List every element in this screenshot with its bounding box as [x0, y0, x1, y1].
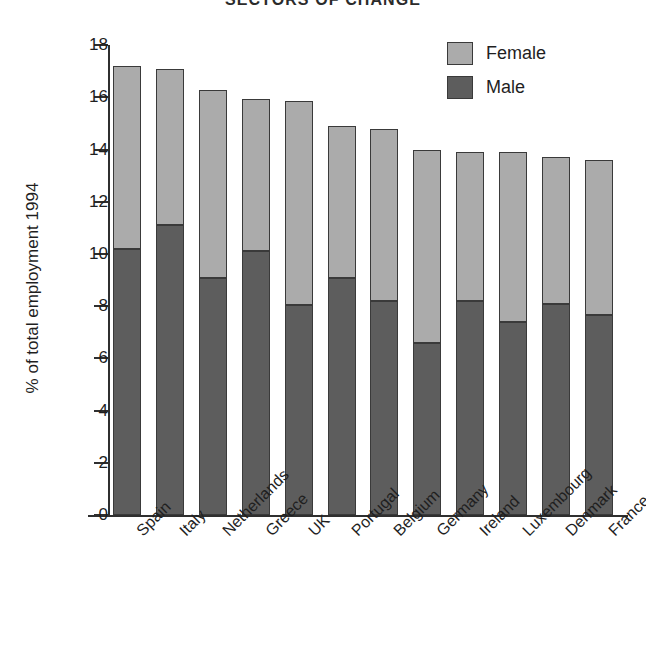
- bar-segment-female[interactable]: [242, 99, 270, 252]
- plot-area: 024681012141618 % of total employment 19…: [0, 0, 646, 646]
- bar-segment-male[interactable]: [242, 251, 270, 515]
- bar-segment-female[interactable]: [585, 160, 613, 315]
- bar-segment-male[interactable]: [156, 225, 184, 515]
- bar-group[interactable]: [242, 99, 270, 515]
- bar-segment-female[interactable]: [370, 129, 398, 301]
- bar-segment-male[interactable]: [285, 305, 313, 515]
- bar-segment-female[interactable]: [328, 126, 356, 277]
- bar-group[interactable]: [328, 126, 356, 515]
- bar-segment-female[interactable]: [456, 152, 484, 301]
- bar-segment-female[interactable]: [285, 101, 313, 305]
- chart-legend: FemaleMale: [447, 36, 546, 104]
- chart-figure: SECTORS OF CHANGE 024681012141618 % of t…: [0, 0, 646, 646]
- bar-segment-male[interactable]: [370, 301, 398, 515]
- bar-segment-female[interactable]: [542, 157, 570, 303]
- bar-segment-female[interactable]: [413, 150, 441, 343]
- bar-segment-male[interactable]: [199, 278, 227, 516]
- bar-series-container: [0, 0, 646, 646]
- bar-group[interactable]: [285, 101, 313, 515]
- legend-item[interactable]: Female: [447, 36, 546, 70]
- legend-item[interactable]: Male: [447, 70, 546, 104]
- bar-segment-male[interactable]: [499, 322, 527, 515]
- bar-segment-female[interactable]: [113, 66, 141, 249]
- bar-segment-female[interactable]: [156, 69, 184, 226]
- bar-segment-male[interactable]: [328, 278, 356, 516]
- bar-segment-female[interactable]: [199, 90, 227, 278]
- bar-group[interactable]: [199, 90, 227, 515]
- bar-group[interactable]: [413, 150, 441, 515]
- bar-group[interactable]: [499, 152, 527, 515]
- bar-segment-female[interactable]: [499, 152, 527, 322]
- bar-group[interactable]: [585, 160, 613, 515]
- bar-group[interactable]: [542, 157, 570, 515]
- bar-segment-male[interactable]: [113, 249, 141, 515]
- bar-group[interactable]: [113, 66, 141, 515]
- legend-label: Female: [486, 43, 546, 64]
- legend-swatch: [447, 76, 473, 99]
- legend-label: Male: [486, 77, 525, 98]
- legend-swatch: [447, 42, 473, 65]
- bar-group[interactable]: [156, 69, 184, 515]
- bar-group[interactable]: [370, 129, 398, 515]
- bar-group[interactable]: [456, 152, 484, 515]
